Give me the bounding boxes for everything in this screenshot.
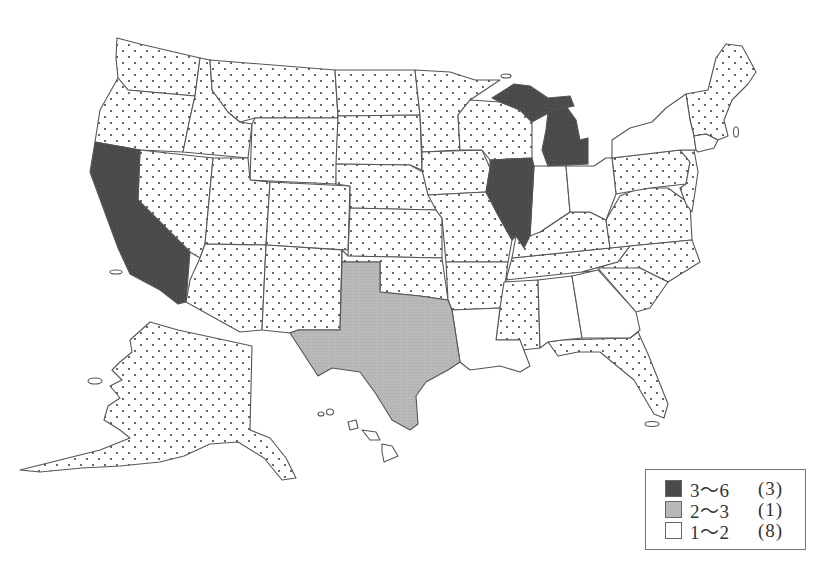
legend-range: 1〜2 — [690, 517, 758, 544]
legend-swatch-white — [665, 522, 682, 539]
state-new-york — [612, 94, 696, 158]
state-nebraska — [336, 164, 436, 210]
state-michigan-lower — [542, 106, 588, 166]
state-south-dakota — [336, 115, 422, 170]
state-ohio — [566, 158, 616, 220]
legend-count: (1) — [758, 499, 783, 521]
state-arkansas — [446, 262, 508, 310]
legend-swatch-grey — [665, 501, 682, 518]
state-montana — [210, 60, 338, 122]
state-virginia — [606, 188, 692, 248]
state-washington — [116, 38, 200, 96]
legend-count: (3) — [758, 478, 783, 500]
state-hawaii — [318, 409, 398, 462]
island-key — [645, 422, 659, 427]
island-channel — [110, 270, 122, 274]
state-wyoming — [250, 118, 338, 184]
state-north-dakota — [335, 70, 420, 116]
legend-count: (8) — [758, 520, 783, 542]
state-iowa — [422, 150, 490, 195]
state-colorado — [266, 182, 350, 250]
legend-swatch-dark — [665, 480, 682, 497]
map-legend: 3〜6 (3) 2〜3 (1) 1〜2 (8) — [645, 469, 806, 550]
state-kansas — [348, 208, 442, 258]
island-lake — [501, 74, 511, 78]
island-nantucket — [734, 127, 739, 137]
state-new-england — [686, 44, 756, 140]
state-new-mexico — [262, 245, 342, 333]
island-st-lawrence — [88, 378, 102, 384]
legend-item-1-2: 1〜2 (8) — [665, 520, 805, 541]
state-florida — [548, 332, 668, 418]
state-alaska — [20, 322, 296, 480]
